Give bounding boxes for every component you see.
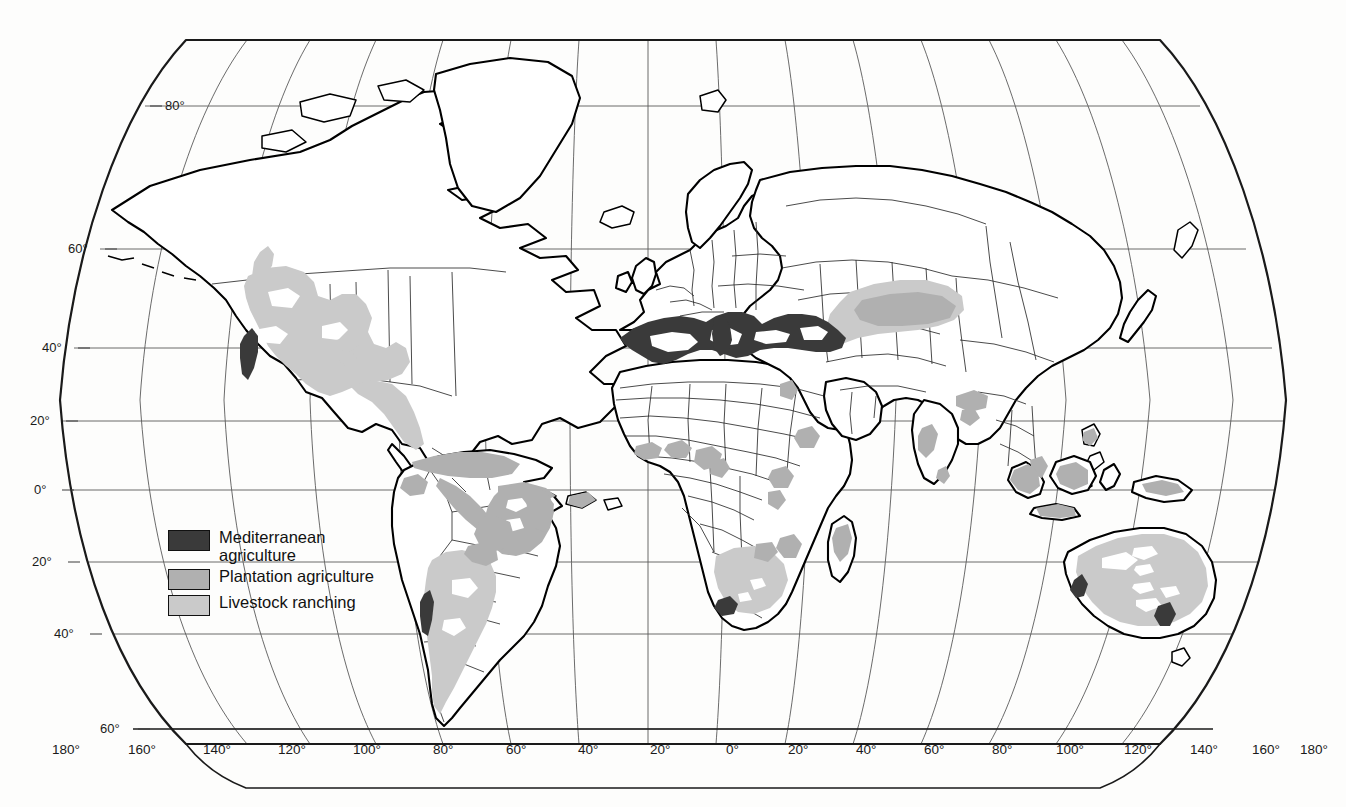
landmass-kamchatka [1174, 222, 1198, 258]
plantation-agriculture-swatch [168, 569, 210, 590]
legend-item-livestock-ranching: Livestock ranching [168, 593, 394, 616]
legend-label-livestock-ranching: Livestock ranching [219, 593, 356, 611]
lon-label-e80: 80° [992, 742, 1012, 757]
landmass-svalbard [700, 90, 726, 112]
lat-label-0: 0° [34, 482, 46, 497]
lon-label-e160: 160° [1252, 742, 1280, 757]
lon-label-w60: 60° [506, 742, 526, 757]
legend-item-mediterranean-agriculture: Mediterranean agriculture [168, 528, 394, 564]
lon-label-e40: 40° [856, 742, 876, 757]
lon-label-e180: 180° [1300, 742, 1328, 757]
lon-label-e20: 20° [788, 742, 808, 757]
lon-label-e140: 140° [1190, 742, 1218, 757]
lon-label-w40: 40° [578, 742, 598, 757]
lat-label-s20: 20° [32, 554, 52, 569]
landmass-japan [1120, 290, 1156, 342]
legend-label-mediterranean-agriculture: Mediterranean agriculture [219, 528, 325, 564]
lon-label-w140: 140° [203, 742, 231, 757]
landmass-sulawesi [1100, 464, 1120, 490]
livestock-ranching-swatch [168, 595, 210, 616]
map-legend: Mediterranean agriculture Plantation agr… [168, 528, 394, 619]
mediterranean-agriculture-swatch [168, 530, 210, 551]
legend-label-plantation-agriculture: Plantation agriculture [219, 567, 374, 585]
lon-label-w180: 180° [52, 742, 80, 757]
livestock-region-new-zealand [1235, 623, 1257, 649]
lon-label-e100: 100° [1056, 742, 1084, 757]
landmass-group [108, 58, 1268, 726]
lat-label-s60: 60° [100, 721, 120, 736]
lat-label-s40: 40° [54, 626, 74, 641]
lon-label-w100: 100° [353, 742, 381, 757]
lat-label-40: 40° [42, 340, 62, 355]
lat-label-80: 80° [165, 98, 185, 113]
map-south-edge [186, 744, 1160, 788]
map-canvas: 80° 60° 40° 20° 0° 20° 40° 60° 180° 160°… [0, 0, 1346, 807]
world-map: 80° 60° 40° 20° 0° 20° 40° 60° 180° 160°… [0, 0, 1346, 807]
lat-label-60: 60° [68, 241, 88, 256]
lat-label-20: 20° [30, 413, 50, 428]
landmass-new-zealand [1234, 598, 1268, 650]
lon-label-e120: 120° [1124, 742, 1152, 757]
lon-label-w160: 160° [128, 742, 156, 757]
lon-label-0: 0° [726, 742, 739, 757]
lon-label-w120: 120° [278, 742, 306, 757]
landmass-iceland [600, 206, 634, 228]
lon-label-e60: 60° [924, 742, 944, 757]
lon-label-w20: 20° [650, 742, 670, 757]
mediterranean-region-california [240, 328, 258, 380]
landmass-tasmania [1172, 648, 1190, 666]
landmass-british-isles [616, 258, 656, 294]
legend-item-plantation-agriculture: Plantation agriculture [168, 567, 394, 590]
lon-label-w80: 80° [433, 742, 453, 757]
